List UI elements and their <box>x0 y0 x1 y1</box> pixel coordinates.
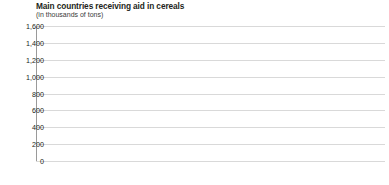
chart-subtitle: (in thousands of tons) <box>36 11 103 18</box>
chart-container: Main countries receiving aid in cereals … <box>0 0 389 185</box>
gridline <box>36 161 385 162</box>
bar-series-area <box>37 26 385 161</box>
chart-title: Main countries receiving aid in cereals <box>36 1 184 11</box>
plot-area: 1,6001,4001,2001,0008006004002000 <box>36 26 385 161</box>
